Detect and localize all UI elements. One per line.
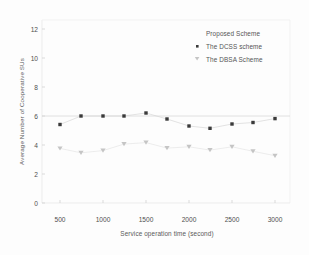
series-dbsa-scheme xyxy=(57,141,277,158)
legend-marker-dbsa xyxy=(195,57,200,61)
plot-canvas xyxy=(0,0,309,255)
series-dcss-scheme xyxy=(58,111,276,130)
axis-frame xyxy=(42,20,290,203)
legend-marker-dcss xyxy=(196,45,199,48)
chart-figure: Average Number of Cooperative SUs Servic… xyxy=(0,0,309,255)
